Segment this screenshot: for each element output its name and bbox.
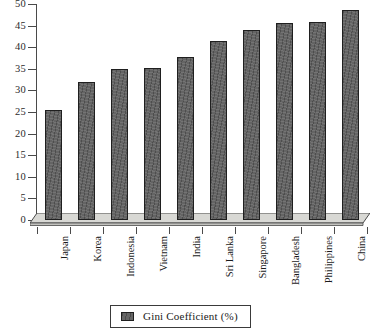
- y-axis-tick-label: 5: [4, 193, 26, 203]
- y-axis-tick-mark: [28, 198, 36, 199]
- x-axis-tick-mark: [37, 227, 38, 234]
- floor-front-face: [30, 223, 363, 226]
- x-axis-tick-mark: [70, 227, 71, 234]
- y-axis-tick-label: 25: [4, 107, 26, 117]
- y-axis-tick-marks: [28, 0, 36, 220]
- bar: [177, 57, 194, 220]
- y-axis-tick-label: 35: [4, 64, 26, 74]
- y-axis-tick-label: 20: [4, 129, 26, 139]
- y-axis-tick-mark: [28, 177, 36, 178]
- y-axis-tick-label: 45: [4, 21, 26, 31]
- bar: [111, 69, 128, 220]
- x-axis-category-label: Japan: [59, 236, 70, 298]
- y-axis-tick-mark: [28, 47, 36, 48]
- x-axis-category-label: Vietnam: [158, 236, 169, 298]
- x-axis-tick-mark: [235, 227, 236, 234]
- bar: [45, 110, 62, 220]
- x-axis-category-label: Sri Lanka: [224, 236, 235, 298]
- y-axis-tick-mark: [28, 155, 36, 156]
- y-axis-tick-mark: [28, 112, 36, 113]
- y-axis-tick-label: 0: [4, 215, 26, 225]
- y-axis-tick-label: 15: [4, 150, 26, 160]
- y-axis-tick-mark: [28, 90, 36, 91]
- bar: [309, 22, 326, 220]
- bar: [342, 10, 359, 220]
- x-axis-category-labels: JapanKoreaIndonesiaVietnamIndiaSri Lanka…: [37, 236, 367, 298]
- x-axis-tick-marks: [37, 227, 367, 234]
- x-axis-tick-mark: [202, 227, 203, 234]
- x-axis-category-label: Bangladesh: [290, 236, 301, 298]
- y-axis-top-stub: [28, 4, 36, 5]
- bar: [276, 23, 293, 220]
- bar: [78, 82, 95, 220]
- x-axis-tick-mark: [103, 227, 104, 234]
- x-axis-category-label: Philippines: [323, 236, 334, 298]
- y-axis-tick-labels: 05101520253035404550: [0, 0, 26, 220]
- legend-label: Gini Coefficient (%): [143, 310, 238, 322]
- x-axis-category-label: India: [191, 236, 202, 298]
- x-axis-tick-mark: [169, 227, 170, 234]
- chart-legend: Gini Coefficient (%): [110, 305, 251, 328]
- x-axis-tick-mark: [334, 227, 335, 234]
- bar: [210, 41, 227, 220]
- y-axis-tick-label: 50: [4, 0, 26, 9]
- x-axis-category-label: Singapore: [257, 236, 268, 298]
- y-axis-tick-mark: [28, 69, 36, 70]
- x-axis-tick-mark: [367, 227, 368, 234]
- bar-chart: 05101520253035404550 JapanKoreaIndonesia…: [0, 0, 377, 334]
- x-axis-category-label: China: [356, 236, 367, 298]
- y-axis-tick-mark: [28, 26, 36, 27]
- legend-color-swatch: [121, 312, 134, 321]
- bar: [243, 30, 260, 220]
- bars-layer: [37, 4, 367, 220]
- x-axis-category-label: Korea: [92, 236, 103, 298]
- y-axis-tick-label: 10: [4, 172, 26, 182]
- x-axis-category-label: Indonesia: [125, 236, 136, 298]
- y-axis-tick-label: 40: [4, 42, 26, 52]
- x-axis-tick-mark: [301, 227, 302, 234]
- y-axis-tick-mark: [28, 134, 36, 135]
- y-axis-tick-label: 30: [4, 85, 26, 95]
- bar: [144, 68, 161, 220]
- x-axis-tick-mark: [268, 227, 269, 234]
- x-axis-tick-mark: [136, 227, 137, 234]
